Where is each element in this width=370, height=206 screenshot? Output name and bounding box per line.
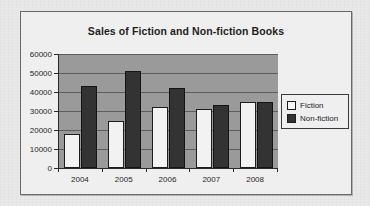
bar-non-fiction-2008	[257, 102, 273, 169]
bar-fiction-2006	[152, 107, 168, 168]
legend-item-non-fiction: Non-fiction	[287, 112, 343, 125]
bar-non-fiction-2005	[125, 71, 141, 168]
y-axis-tick-label: 20000	[21, 126, 57, 135]
bar-non-fiction-2004	[81, 86, 97, 168]
plot-area	[58, 54, 278, 168]
y-axis-tick-label: 40000	[21, 88, 57, 97]
y-axis-tick-label: 30000	[21, 107, 57, 116]
legend-swatch-icon	[287, 114, 296, 123]
legend-item-fiction: Fiction	[287, 99, 343, 112]
x-axis-tick-mark	[102, 168, 103, 172]
legend-label: Non-fiction	[300, 114, 338, 123]
chart-legend: FictionNon-fiction	[281, 94, 349, 129]
bar-non-fiction-2006	[169, 88, 185, 168]
bar-fiction-2004	[64, 134, 80, 168]
x-axis-tick-mark	[277, 168, 278, 172]
x-axis-tick-label-2004: 2004	[71, 175, 89, 184]
bar-fiction-2005	[108, 121, 124, 169]
x-axis-tick-label-2006: 2006	[159, 175, 177, 184]
x-axis-tick-mark	[233, 168, 234, 172]
y-axis-tick-label: 10000	[21, 145, 57, 154]
x-axis-tick-mark	[146, 168, 147, 172]
x-axis-tick-label-2005: 2005	[115, 175, 133, 184]
chart-frame: Sales of Fiction and Non-fiction Books F…	[20, 11, 352, 195]
legend-swatch-icon	[287, 101, 296, 110]
bar-fiction-2007	[196, 109, 212, 168]
gridline	[59, 73, 278, 74]
x-axis-tick-mark	[189, 168, 190, 172]
y-axis-tick-label: 60000	[21, 50, 57, 59]
x-axis-line	[58, 168, 278, 169]
x-axis-tick-label-2007: 2007	[202, 175, 220, 184]
chart-title: Sales of Fiction and Non-fiction Books	[21, 25, 351, 37]
y-axis-tick-label: 50000	[21, 69, 57, 78]
bar-non-fiction-2007	[213, 105, 229, 168]
x-axis-tick-label-2008: 2008	[246, 175, 264, 184]
gridline	[59, 54, 278, 55]
y-axis-tick-label: 0	[21, 164, 57, 173]
x-axis-tick-mark	[58, 168, 59, 172]
bar-fiction-2008	[240, 102, 256, 169]
legend-label: Fiction	[300, 101, 324, 110]
